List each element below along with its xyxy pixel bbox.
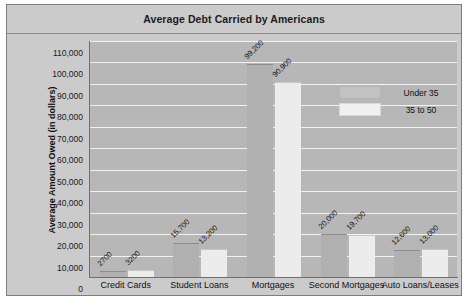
bar-value-label: 3200 (123, 249, 141, 267)
y-axis-tick-labels: 010,00020,00030,00040,00050,00060,00070,… (25, 47, 83, 278)
y-axis-tick-label: 40,000 (57, 198, 83, 208)
bar-group: 27003200 (90, 41, 164, 277)
legend-color-swatch (339, 86, 381, 99)
bar[interactable] (128, 270, 154, 277)
bar-value-label: 15,700 (169, 218, 192, 241)
y-axis-tick-label: 0 (78, 284, 83, 294)
x-axis-category-labels: Credit CardsStudent LoansMortgagesSecond… (89, 280, 458, 298)
y-axis-tick-label: 30,000 (57, 220, 83, 230)
x-axis-category-label: Credit Cards (101, 280, 152, 290)
legend-item[interactable]: 35 to 50 (339, 101, 459, 118)
bar-value-label: 13,000 (418, 223, 441, 246)
bar-value-label: 20,000 (316, 208, 339, 231)
y-axis-tick-label: 80,000 (57, 112, 83, 122)
bar[interactable] (394, 250, 420, 277)
y-axis-tick-label: 110,000 (53, 48, 83, 58)
bar-group: 15,70013,200 (164, 41, 238, 277)
legend-color-swatch (339, 103, 381, 116)
bar[interactable] (422, 249, 448, 277)
bar[interactable] (173, 243, 199, 277)
legend-label: 35 to 50 (381, 105, 459, 115)
x-axis-line (89, 277, 458, 278)
legend-item[interactable]: Under 35 (339, 84, 459, 101)
bar-value-label: 90,900 (271, 56, 294, 79)
chart-title: Average Debt Carried by Americans (143, 13, 325, 25)
chart-title-band: Average Debt Carried by Americans (7, 5, 461, 34)
y-axis-tick-label: 10,000 (57, 263, 83, 273)
y-axis-tick-label: 70,000 (57, 134, 83, 144)
x-axis-category-label: Mortgages (252, 280, 295, 290)
x-axis-category-label: Student Loans (170, 280, 228, 290)
bar-group: 99,20090,900 (237, 41, 311, 277)
bar[interactable] (321, 234, 347, 277)
y-axis-tick-label: 90,000 (57, 91, 83, 101)
bar-value-label: 19,700 (344, 209, 367, 232)
y-axis-tick-label: 100,000 (52, 69, 83, 79)
bar[interactable] (349, 235, 375, 277)
bar-value-label: 2700 (95, 250, 113, 268)
bar-value-label: 13,200 (197, 223, 220, 246)
chart-screenshot: Average Debt Carried by Americans Averag… (0, 0, 468, 305)
chart-legend: Under 3535 to 50 (339, 84, 459, 118)
plot-area: 2700320015,70013,20099,20090,90020,00019… (89, 41, 457, 277)
x-axis-category-label: Auto Loans/Leases (382, 280, 459, 290)
bar-groups: 2700320015,70013,20099,20090,90020,00019… (90, 41, 457, 277)
y-axis-tick-label: 50,000 (57, 177, 83, 187)
bar[interactable] (275, 82, 301, 277)
bar[interactable] (247, 64, 273, 277)
bar[interactable] (201, 249, 227, 277)
bar-group: 20,00019,700 (311, 41, 385, 277)
chart-frame: Average Debt Carried by Americans Averag… (6, 4, 462, 296)
y-axis-tick-label: 60,000 (57, 155, 83, 165)
bar-value-label: 99,200 (243, 38, 266, 61)
bar-value-label: 12,600 (390, 224, 413, 247)
y-axis-tick-label: 20,000 (57, 241, 83, 251)
bar-group: 12,60013,000 (384, 41, 458, 277)
legend-label: Under 35 (381, 88, 459, 98)
x-axis-category-label: Second Mortgages (309, 280, 385, 290)
